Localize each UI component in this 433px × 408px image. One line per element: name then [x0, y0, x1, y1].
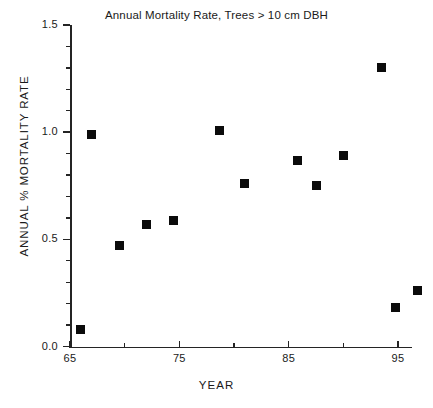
data-point-marker — [312, 181, 321, 190]
y-tick-major — [63, 131, 70, 133]
data-point-marker — [142, 220, 151, 229]
x-tick-label: 85 — [269, 352, 309, 364]
y-tick-major — [63, 239, 70, 241]
data-point-marker — [115, 241, 124, 250]
data-point-marker — [413, 286, 422, 295]
y-tick-label: 0.0 — [18, 340, 58, 352]
x-tick-label: 95 — [378, 352, 418, 364]
data-point-marker — [339, 151, 348, 160]
data-point-marker — [169, 216, 178, 225]
y-tick-major — [63, 24, 70, 26]
x-tick-label: 75 — [159, 352, 199, 364]
data-point-marker — [391, 303, 400, 312]
chart-title: Annual Mortality Rate, Trees > 10 cm DBH — [0, 9, 433, 21]
data-point-marker — [240, 179, 249, 188]
scatter-plot-figure: Annual Mortality Rate, Trees > 10 cm DBH… — [0, 0, 433, 408]
x-axis-title: YEAR — [0, 379, 433, 391]
y-axis-title: ANNUAL % MORTALITY RATE — [18, 56, 30, 276]
data-point-marker — [293, 156, 302, 165]
x-tick-label: 65 — [50, 352, 90, 364]
y-tick-label: 1.5 — [18, 18, 58, 30]
data-point-marker — [87, 130, 96, 139]
data-point-marker — [76, 325, 85, 334]
data-point-marker — [377, 63, 386, 72]
data-point-marker — [215, 126, 224, 135]
